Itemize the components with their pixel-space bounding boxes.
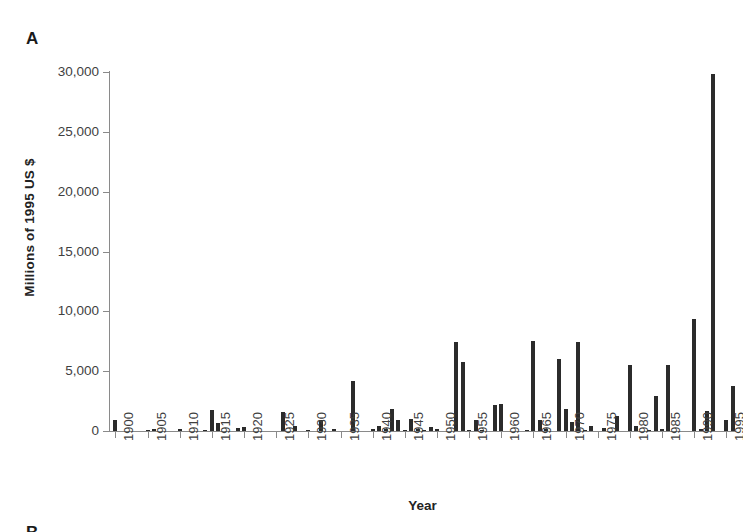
x-axis-tick	[212, 432, 213, 438]
y-axis-tick-label: 20,000	[3, 185, 99, 199]
bar	[429, 427, 433, 431]
y-axis-tick-label: 30,000	[3, 65, 99, 79]
x-axis-tick	[148, 432, 149, 438]
x-axis-tick-label: 1920	[238, 441, 252, 487]
x-axis-tick-label: 1935	[335, 441, 349, 487]
x-axis-tick	[341, 432, 342, 438]
y-axis-tick-label: 5,000	[3, 364, 99, 378]
bar	[525, 430, 529, 431]
bar	[242, 427, 246, 431]
x-axis-tick	[308, 432, 309, 438]
bar	[628, 365, 632, 431]
bar	[396, 420, 400, 431]
x-axis-tick	[373, 432, 374, 438]
bar	[146, 430, 150, 431]
x-axis-tick-label: 1980	[624, 441, 638, 487]
bar	[371, 429, 375, 431]
bar	[306, 430, 310, 431]
x-axis-title: Year	[109, 498, 736, 513]
y-axis-tick	[103, 431, 109, 432]
x-axis-tick-label: 1965	[527, 441, 541, 487]
x-axis-tick-label: 1955	[463, 441, 477, 487]
bar	[467, 430, 471, 431]
bar	[499, 404, 503, 431]
bar	[654, 396, 658, 431]
x-axis-tick-label: 1900	[109, 441, 123, 487]
bar	[435, 429, 439, 431]
x-axis-tick-label: 1990	[688, 441, 702, 487]
y-axis-tick-label-wrap: 15,000	[0, 245, 99, 259]
y-axis-tick-label: 25,000	[3, 125, 99, 139]
y-axis-tick-label-wrap: 5,000	[0, 364, 99, 378]
bar	[564, 409, 568, 431]
x-axis-tick-label: 1915	[206, 441, 220, 487]
figure-panel-a: A B Millions of 1995 US $ 30,00025,00020…	[0, 0, 743, 532]
y-axis-title: Millions of 1995 US $	[22, 128, 37, 328]
x-axis-tick	[180, 432, 181, 438]
x-axis-tick-label: 1975	[592, 441, 606, 487]
x-axis-tick	[405, 432, 406, 438]
y-axis-tick-label: 0	[3, 424, 99, 438]
bars-layer	[109, 71, 736, 431]
panel-label-b: B	[26, 524, 38, 532]
bar	[724, 420, 728, 431]
x-axis-tick-label: 1910	[174, 441, 188, 487]
x-axis-tick	[244, 432, 245, 438]
bar	[660, 429, 664, 431]
bar	[557, 359, 561, 431]
bar	[236, 428, 240, 431]
bar	[403, 430, 407, 431]
bar	[332, 429, 336, 431]
bar	[461, 362, 465, 431]
x-axis-tick	[726, 432, 727, 438]
x-axis-tick	[276, 432, 277, 438]
x-axis-tick-label: 1995	[720, 441, 734, 487]
x-axis-tick	[694, 432, 695, 438]
x-axis-tick	[501, 432, 502, 438]
bar	[113, 420, 117, 431]
bar	[531, 341, 535, 431]
x-axis-tick-label: 1930	[302, 441, 316, 487]
x-axis-tick-label: 1925	[270, 441, 284, 487]
x-axis-tick	[630, 432, 631, 438]
y-axis-tick-label-wrap: 30,000	[0, 65, 99, 79]
x-axis-tick-label: 1985	[656, 441, 670, 487]
panel-label-a: A	[26, 30, 38, 47]
y-axis-tick-label: 15,000	[3, 245, 99, 259]
y-axis-tick-label-wrap: 10,000	[0, 304, 99, 318]
bar	[178, 429, 182, 431]
bar	[711, 74, 715, 431]
bar	[692, 319, 696, 431]
x-axis-tick	[469, 432, 470, 438]
x-axis-tick	[598, 432, 599, 438]
bar	[589, 426, 593, 431]
x-axis-tick-label: 1945	[399, 441, 413, 487]
x-axis-tick	[662, 432, 663, 438]
x-axis-tick-label: 1970	[560, 441, 574, 487]
x-axis-tick	[115, 432, 116, 438]
x-axis-tick-label: 1940	[367, 441, 381, 487]
x-axis-tick	[437, 432, 438, 438]
x-axis-tick	[566, 432, 567, 438]
x-axis-tick-label: 1960	[495, 441, 509, 487]
y-axis-tick-label-wrap: 20,000	[0, 185, 99, 199]
x-axis-tick	[533, 432, 534, 438]
bar	[493, 405, 497, 431]
x-axis-tick-label: 1950	[431, 441, 445, 487]
x-axis-tick-label: 1905	[142, 441, 156, 487]
y-axis-tick-label-wrap: 0	[0, 424, 99, 438]
y-axis-tick-label-wrap: 25,000	[0, 125, 99, 139]
y-axis-tick-label: 10,000	[3, 304, 99, 318]
bar	[210, 410, 214, 431]
bar	[203, 430, 207, 431]
